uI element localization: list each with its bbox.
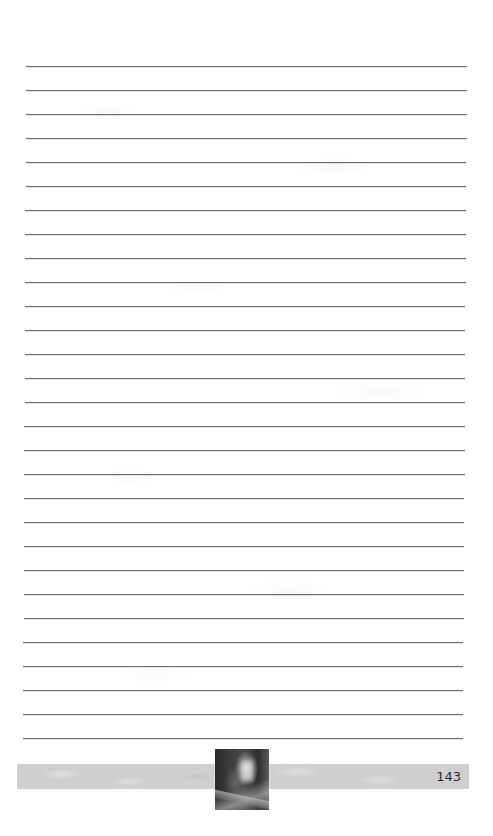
ruled-line [24, 570, 464, 571]
ruled-line [24, 450, 464, 451]
ruled-line [24, 474, 464, 475]
ruled-line [25, 258, 466, 259]
ruled-line [25, 330, 466, 331]
ruled-line [26, 66, 467, 67]
page-number: 143 [436, 769, 461, 784]
photo-thumbnail-icon [215, 749, 269, 810]
ruled-line [25, 354, 466, 355]
ruled-line [25, 306, 466, 307]
thumbnail-strip [215, 789, 269, 810]
ruled-line [25, 378, 466, 379]
ruled-line [25, 282, 466, 283]
ruled-line [25, 234, 466, 235]
ruled-line [26, 162, 467, 163]
ruled-line [24, 522, 464, 523]
ruled-line [23, 666, 463, 667]
ruled-line [24, 498, 464, 499]
ruled-line [26, 186, 467, 187]
ruled-line [26, 114, 467, 115]
ruled-line [24, 618, 464, 619]
thumbnail-highlight [241, 761, 253, 781]
ruled-line [26, 138, 467, 139]
ruled-line [24, 546, 464, 547]
ruled-lines [0, 0, 493, 836]
ruled-line [23, 738, 463, 739]
ruled-line [23, 714, 463, 715]
ruled-line [23, 690, 463, 691]
ruled-line [24, 426, 465, 427]
ruled-line [25, 402, 466, 403]
ruled-line [25, 210, 466, 211]
ruled-line [26, 90, 467, 91]
notes-page: 143 [0, 0, 493, 836]
ruled-line [24, 594, 464, 595]
ruled-line [23, 642, 463, 643]
